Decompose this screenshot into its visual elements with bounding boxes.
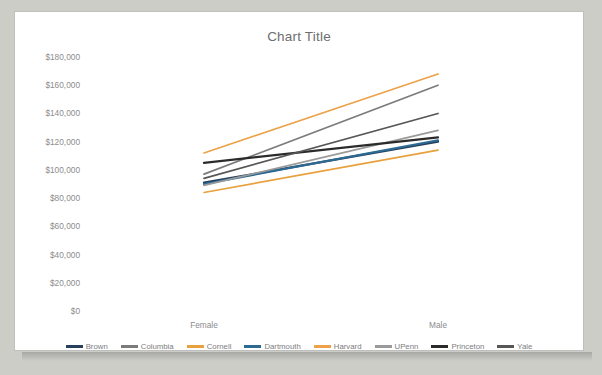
legend-swatch-icon [244, 345, 261, 348]
legend-item-princeton[interactable]: Princeton [431, 342, 484, 351]
legend-item-harvard[interactable]: Harvard [314, 342, 362, 351]
y-axis-tick-label: $180,000 [45, 52, 80, 62]
series-line-cornell[interactable] [204, 150, 438, 192]
y-axis-tick-label: $120,000 [45, 137, 80, 147]
y-axis-tick-label: $100,000 [45, 165, 80, 175]
legend-swatch-icon [497, 345, 514, 347]
legend-swatch-icon [187, 345, 204, 347]
series-line-columbia[interactable] [204, 85, 438, 174]
chart-title[interactable]: Chart Title [15, 29, 583, 44]
y-axis-tick-label: $160,000 [45, 80, 80, 90]
y-axis-tick-label: $40,000 [50, 250, 80, 260]
legend-item-label: Harvard [334, 342, 362, 351]
legend-item-label: Cornell [207, 342, 232, 351]
y-axis-tick-label: $60,000 [50, 221, 80, 231]
x-axis-tick-label: Female [190, 320, 218, 330]
series-lines [87, 57, 555, 311]
chart-screenshot: Chart Title $0$20,000$40,000$60,000$80,0… [0, 0, 602, 375]
legend-item-label: Dartmouth [264, 342, 300, 351]
legend-item-columbia[interactable]: Columbia [121, 342, 174, 351]
y-axis-tick-label: $20,000 [50, 278, 80, 288]
legend-item-brown[interactable]: Brown [66, 342, 108, 351]
legend-item-label: Yale [517, 342, 532, 351]
chart-card[interactable]: Chart Title $0$20,000$40,000$60,000$80,0… [14, 11, 584, 351]
legend-item-label: Brown [86, 342, 108, 351]
legend-item-dartmouth[interactable]: Dartmouth [244, 342, 300, 351]
legend-item-label: Columbia [141, 342, 174, 351]
legend-swatch-icon [121, 345, 138, 347]
chart-legend[interactable]: BrownColumbiaCornellDartmouthHarvardUPen… [15, 342, 583, 351]
legend-item-label: Princeton [451, 342, 484, 351]
card-shadow [22, 352, 592, 361]
legend-swatch-icon [375, 345, 392, 347]
y-axis-tick-label: $140,000 [45, 108, 80, 118]
legend-item-yale[interactable]: Yale [497, 342, 532, 351]
legend-item-label: UPenn [395, 342, 419, 351]
series-line-upenn[interactable] [204, 130, 438, 185]
legend-item-cornell[interactable]: Cornell [187, 342, 232, 351]
y-axis-tick-label: $80,000 [50, 193, 80, 203]
plot-area[interactable]: $0$20,000$40,000$60,000$80,000$100,000$1… [87, 57, 555, 311]
y-axis-tick-label: $0 [71, 306, 80, 316]
legend-swatch-icon [66, 345, 83, 348]
legend-swatch-icon [431, 345, 448, 348]
x-axis-tick-label: Male [429, 320, 447, 330]
legend-swatch-icon [314, 345, 331, 347]
legend-item-upenn[interactable]: UPenn [375, 342, 419, 351]
